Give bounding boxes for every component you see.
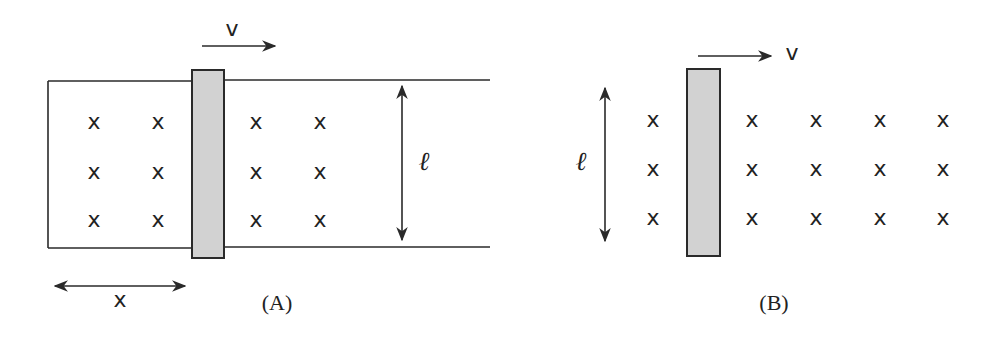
field-into-page-icon: x xyxy=(745,107,758,132)
panel-caption: (B) xyxy=(759,290,788,315)
field-into-page-icon: x xyxy=(87,109,100,134)
field-into-page-icon: x xyxy=(151,109,164,134)
field-into-page-icon: x xyxy=(745,205,758,230)
velocity-label: v xyxy=(225,16,238,41)
field-into-page-icon: x xyxy=(249,159,262,184)
field-into-page-icon: x xyxy=(313,159,326,184)
moving-conductor-bar xyxy=(687,69,720,256)
field-into-page-icon: x xyxy=(809,107,822,132)
field-into-page-icon: x xyxy=(936,107,949,132)
field-into-page-icon: x xyxy=(313,207,326,232)
field-into-page-icon: x xyxy=(249,207,262,232)
field-into-page-icon: x xyxy=(646,205,659,230)
field-into-page-icon: x xyxy=(873,205,886,230)
velocity-label: v xyxy=(785,40,798,65)
field-into-page-icon: x xyxy=(646,156,659,181)
panel-a: x x x x x x x x x x x x v ℓ x (A) xyxy=(48,16,490,315)
field-into-page-icon: x xyxy=(936,205,949,230)
field-into-page-icon: x xyxy=(151,159,164,184)
field-into-page-icon: x xyxy=(87,207,100,232)
length-label: ℓ xyxy=(576,146,587,176)
field-into-page-icon: x xyxy=(936,156,949,181)
sliding-conductor-bar xyxy=(192,70,224,258)
panel-b: x x x x x x x x x x x x x x x v ℓ (B) xyxy=(576,40,950,315)
diagram-canvas: x x x x x x x x x x x x v ℓ x (A) x xyxy=(0,0,994,341)
field-into-page-icon: x xyxy=(809,156,822,181)
field-into-page-icon: x xyxy=(249,109,262,134)
distance-label: x xyxy=(113,287,126,312)
field-into-page-icon: x xyxy=(87,159,100,184)
field-into-page-icon: x xyxy=(873,156,886,181)
length-label: ℓ xyxy=(419,146,430,176)
panel-caption: (A) xyxy=(262,290,293,315)
field-into-page-icon: x xyxy=(873,107,886,132)
field-into-page-icon: x xyxy=(646,107,659,132)
field-into-page-icon: x xyxy=(745,156,758,181)
field-into-page-icon: x xyxy=(313,109,326,134)
field-into-page-icon: x xyxy=(151,207,164,232)
field-into-page-icon: x xyxy=(809,205,822,230)
